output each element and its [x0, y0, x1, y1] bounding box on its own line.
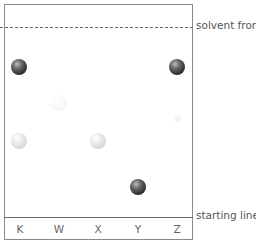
spot-z-faint	[175, 116, 181, 122]
starting-line-label: starting line	[196, 209, 256, 221]
lane-label-w: W	[49, 223, 69, 235]
spot-w-faint	[51, 95, 67, 111]
lane-label-x: X	[88, 223, 108, 235]
spot-y-dark	[130, 179, 146, 195]
lane-label-z: Z	[167, 223, 187, 235]
starting-line	[4, 217, 193, 218]
lane-label-k: K	[10, 223, 30, 235]
lane-label-y: Y	[128, 223, 148, 235]
chromatography-paper	[4, 4, 193, 240]
solvent-front-label: solvent front	[196, 19, 256, 31]
spot-k-light	[11, 133, 27, 149]
spot-x-light	[90, 133, 106, 149]
spot-k-dark	[11, 59, 27, 75]
solvent-front-line	[0, 27, 193, 28]
spot-z-dark	[169, 59, 185, 75]
